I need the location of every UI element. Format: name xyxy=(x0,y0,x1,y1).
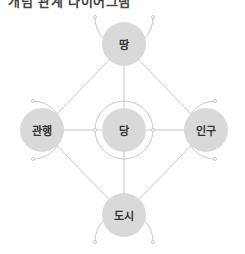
arc-dot xyxy=(32,158,35,161)
arc-dot xyxy=(94,241,97,244)
arc-dot xyxy=(214,158,217,161)
arc-dot xyxy=(94,16,97,19)
node-bottom-label: 도시 xyxy=(102,193,146,237)
arc-dot xyxy=(152,16,155,19)
node-left-label: 관행 xyxy=(20,108,64,152)
arc-dot xyxy=(32,100,35,103)
arc-dot xyxy=(152,241,155,244)
node-center-label: 당 xyxy=(102,108,146,152)
arc-dot xyxy=(214,100,217,103)
node-top-label: 땅 xyxy=(102,22,146,66)
node-right-label: 인구 xyxy=(184,108,228,152)
ring-dot xyxy=(152,129,155,132)
ring-dot xyxy=(94,129,97,132)
